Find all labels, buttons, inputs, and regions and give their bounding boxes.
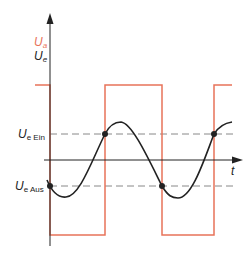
input-voltage-label: Ue — [34, 49, 48, 64]
threshold-off-label: Ue Aus — [15, 179, 44, 194]
switch-point-on-1 — [102, 131, 108, 137]
schmitt-trigger-diagram: Ua Ue Ue Ein Ue Aus t — [0, 0, 250, 260]
time-axis-label: t — [231, 164, 235, 178]
switch-point-off-2 — [159, 183, 165, 189]
switch-point-on-2 — [211, 131, 217, 137]
time-axis-arrow-icon — [232, 157, 243, 164]
threshold-on-label: Ue Ein — [18, 127, 45, 142]
output-voltage-label: Ua — [34, 35, 48, 50]
voltage-axis-arrow-icon — [47, 13, 54, 24]
switch-point-off-1 — [47, 183, 53, 189]
